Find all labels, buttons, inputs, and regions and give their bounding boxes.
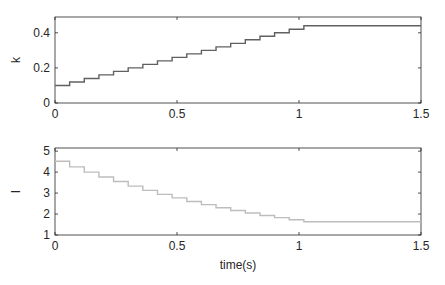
i-subplot: 00.511.512345Itime(s) — [9, 144, 430, 272]
y-tick-label: 5 — [43, 144, 50, 158]
chart-figure: 00.511.500.20.4k 00.511.512345Itime(s) — [0, 0, 445, 285]
plot-area — [55, 17, 421, 103]
k-subplot: 00.511.500.20.4k — [9, 17, 430, 121]
y-tick-label: 2 — [43, 207, 50, 221]
x-axis-label: time(s) — [220, 258, 257, 272]
x-tick-label: 1.5 — [413, 239, 430, 253]
y-tick-label: 3 — [43, 186, 50, 200]
y-axis-label: I — [9, 190, 23, 193]
x-tick-label: 1.5 — [413, 107, 430, 121]
y-tick-label: 0.4 — [33, 26, 50, 40]
y-tick-label: 0 — [43, 96, 50, 110]
y-tick-label: 0.2 — [33, 61, 50, 75]
x-tick-label: 0.5 — [169, 107, 186, 121]
x-tick-label: 1 — [296, 239, 303, 253]
x-tick-label: 0 — [52, 107, 59, 121]
x-tick-label: 0 — [52, 239, 59, 253]
y-axis-label: k — [9, 56, 23, 63]
x-tick-label: 0.5 — [169, 239, 186, 253]
y-tick-label: 4 — [43, 165, 50, 179]
x-tick-label: 1 — [296, 107, 303, 121]
y-tick-label: 1 — [43, 228, 50, 242]
